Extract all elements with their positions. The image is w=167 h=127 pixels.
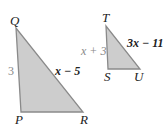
vertex-t-label: T — [102, 10, 110, 25]
vertex-r-label: R — [79, 112, 88, 127]
similar-triangles-diagram: Q P R 3 x − 5 T S U x + 3 3x − 11 — [0, 0, 167, 127]
vertex-q-label: Q — [10, 13, 20, 28]
side-ts-label: x + 3 — [80, 44, 106, 58]
vertex-u-label: U — [134, 69, 145, 84]
vertex-s-label: S — [104, 69, 111, 84]
side-qr-label: x − 5 — [54, 64, 80, 78]
vertex-p-label: P — [14, 112, 23, 127]
side-tu-label: 3x − 11 — [126, 36, 164, 50]
side-qp-label: 3 — [8, 64, 14, 78]
